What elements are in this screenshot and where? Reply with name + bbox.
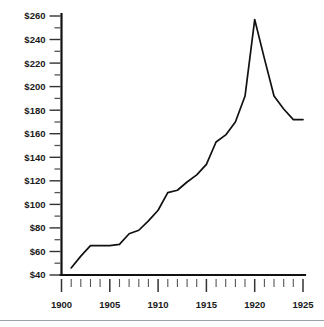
y-axis-tick-label: $200	[24, 81, 45, 92]
x-axis-tick-label: 1905	[99, 299, 121, 310]
y-axis-tick-label: $80	[30, 222, 46, 233]
y-axis-tick-label: $240	[24, 34, 45, 45]
y-axis-tick-label: $140	[24, 152, 45, 163]
x-label-group: 190019051910191519201925	[51, 299, 314, 310]
x-axis-tick-label: 1910	[148, 299, 169, 310]
x-axis-tick-label: 1925	[292, 299, 314, 310]
x-tick-group	[62, 279, 304, 292]
y-axis-tick-label: $120	[24, 175, 45, 186]
x-axis-tick-label: 1920	[244, 299, 265, 310]
y-axis-tick-label: $260	[24, 10, 45, 21]
y-label-group: $260$240$220$200$180$160$140$120$100$80$…	[24, 10, 45, 280]
y-axis-tick-label: $40	[30, 269, 46, 280]
y-axis-tick-label: $220	[24, 58, 45, 69]
line-chart: $260$240$220$200$180$160$140$120$100$80$…	[0, 0, 324, 327]
y-axis-tick-label: $100	[24, 199, 45, 210]
chart-container: $260$240$220$200$180$160$140$120$100$80$…	[0, 0, 324, 327]
x-axis-tick-label: 1900	[51, 299, 72, 310]
x-axis-tick-label: 1915	[196, 299, 218, 310]
y-axis-tick-label: $60	[30, 246, 46, 257]
y-axis-tick-label: $160	[24, 128, 45, 139]
y-axis-tick-label: $180	[24, 105, 45, 116]
data-series-line	[71, 20, 303, 268]
y-tick-group	[50, 16, 61, 275]
